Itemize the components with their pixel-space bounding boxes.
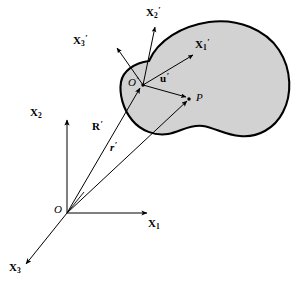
vector-diagram-figure: X2′ X3′ X1′ O′ u′ P R′ r′ X2 X1 X3 O [0,0,295,282]
vector-u-label: u′ [160,72,169,84]
local-origin-label: O′ [128,76,138,88]
vector-r-label: r′ [110,141,117,153]
global-origin-label: O [54,204,62,215]
vector-R-line [67,88,140,213]
point-P-dot [187,97,190,100]
local-origin-dot [141,83,144,86]
global-axis-X3-line [26,213,67,264]
vector-R-label: R′ [92,120,103,132]
local-axis-X1-label: X1′ [195,38,210,52]
local-axis-X2-label: X2′ [146,6,161,20]
local-axis-X3-label: X3′ [73,34,88,48]
global-axis-X3-extension [67,192,84,213]
global-axis-X3-label: X3 [9,262,21,275]
global-axis-X2-label: X2 [30,107,42,120]
diagram-canvas [0,0,295,282]
global-axis-X1-label: X1 [148,218,160,231]
point-P-label: P [196,92,203,103]
vector-r-line [67,101,187,213]
